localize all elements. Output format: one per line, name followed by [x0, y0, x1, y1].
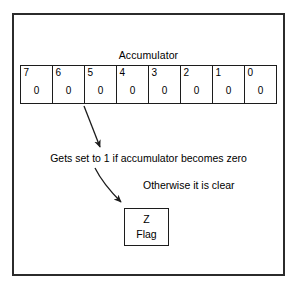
bit-value-label: 0 — [85, 85, 116, 96]
bit-value-label: 0 — [213, 85, 244, 96]
bit-index-label: 2 — [184, 67, 190, 78]
bit-value-label: 0 — [181, 85, 212, 96]
zero-flag-box: Z Flag — [124, 208, 169, 246]
accumulator-bit-cell: 7 0 — [21, 66, 53, 103]
accumulator-bit-cell: 4 0 — [117, 66, 149, 103]
zero-flag-diagram: Accumulator 7 0 6 0 5 0 4 0 3 0 2 0 1 0 — [0, 0, 298, 287]
accumulator-bit-cell: 6 0 — [53, 66, 85, 103]
accumulator-title: Accumulator — [20, 49, 277, 61]
bit-value-label: 0 — [117, 85, 148, 96]
bit-index-label: 3 — [152, 67, 158, 78]
bit-value-label: 0 — [21, 85, 52, 96]
accumulator-bit-cell: 1 0 — [213, 66, 245, 103]
bit-index-label: 7 — [24, 67, 30, 78]
clear-condition-text: Otherwise it is clear — [143, 179, 235, 192]
accumulator-register: 7 0 6 0 5 0 4 0 3 0 2 0 1 0 0 0 — [20, 65, 277, 104]
zero-flag-label: Flag — [125, 228, 168, 240]
bit-index-label: 5 — [88, 67, 94, 78]
bit-index-label: 4 — [120, 67, 126, 78]
bit-index-label: 1 — [216, 67, 222, 78]
bit-value-label: 0 — [53, 85, 84, 96]
accumulator-bit-cell: 3 0 — [149, 66, 181, 103]
set-condition-text: Gets set to 1 if accumulator becomes zer… — [12, 152, 285, 165]
bit-value-label: 0 — [149, 85, 180, 96]
bit-index-label: 6 — [56, 67, 62, 78]
accumulator-bit-cell: 2 0 — [181, 66, 213, 103]
accumulator-bit-cell: 5 0 — [85, 66, 117, 103]
zero-flag-symbol: Z — [125, 213, 168, 225]
bit-index-label: 0 — [248, 67, 254, 78]
accumulator-bit-cell: 0 0 — [245, 66, 276, 103]
bit-value-label: 0 — [245, 85, 276, 96]
